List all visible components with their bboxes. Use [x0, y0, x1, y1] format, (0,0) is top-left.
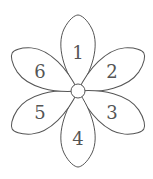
- flower-diagram: 1 2 3 4 5 6: [0, 0, 153, 179]
- flower-center: [71, 84, 85, 98]
- petal-label-6: 6: [34, 61, 45, 82]
- petal-label-4: 4: [72, 128, 83, 149]
- petal-label-1: 1: [72, 42, 83, 63]
- flower-svg: 1 2 3 4 5 6: [0, 0, 153, 179]
- petal-label-3: 3: [106, 102, 117, 123]
- petal-label-2: 2: [106, 61, 117, 82]
- petal-label-5: 5: [34, 102, 45, 123]
